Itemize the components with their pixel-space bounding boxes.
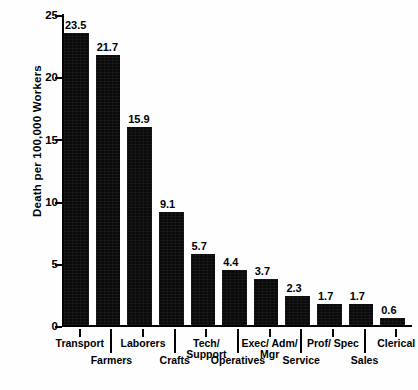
bar	[317, 304, 342, 325]
y-axis-tick-mark	[55, 202, 62, 204]
x-axis-tick-label: Clerical	[377, 338, 415, 349]
bar-chart: Death per 100,000 Workers 0510152025 23.…	[0, 0, 418, 390]
bar-slot: 2.3	[285, 14, 317, 325]
bar	[127, 127, 152, 325]
x-axis-tick-mark	[300, 329, 302, 353]
y-axis-tick-mark	[55, 15, 62, 17]
x-axis-tick-mark	[142, 329, 144, 337]
bar-value-label: 3.7	[255, 266, 270, 279]
bar-value-label: 0.6	[381, 305, 396, 318]
x-axis-tick-label: Laborers	[121, 338, 166, 349]
y-axis-tick-mark	[55, 77, 62, 79]
bar-value-label: 1.7	[350, 291, 365, 304]
bar-slot: 9.1	[159, 14, 191, 325]
bar-slot: 1.7	[317, 14, 349, 325]
x-axis-tick-mark	[174, 329, 176, 353]
bar	[349, 304, 374, 325]
bar-slot: 23.5	[64, 14, 96, 325]
bar	[159, 212, 184, 325]
x-axis-tick-label: Service	[283, 355, 320, 366]
x-axis-labels: TransportFarmersLaborersCraftsTech/Suppo…	[62, 329, 412, 390]
bar-series: 23.521.715.99.15.74.43.72.31.71.70.6	[64, 14, 412, 325]
bar-value-label: 21.7	[97, 42, 118, 55]
x-axis-tick-label: Prof/ Spec	[307, 338, 359, 349]
bar-value-label: 2.3	[286, 283, 301, 296]
bar	[254, 279, 279, 325]
x-axis-tick-label: Transport	[56, 338, 104, 349]
x-axis-tick-mark	[79, 329, 81, 337]
bar-value-label: 4.4	[223, 257, 238, 270]
x-axis-tick-mark	[332, 329, 334, 337]
bar	[380, 318, 405, 325]
plot-area: 0510152025 23.521.715.99.15.74.43.72.31.…	[62, 14, 412, 327]
y-axis-tick-mark	[55, 139, 62, 141]
bar-slot: 5.7	[191, 14, 223, 325]
bar-value-label: 15.9	[128, 114, 149, 127]
x-axis-tick-label: Farmers	[91, 355, 132, 366]
x-axis-line	[62, 325, 412, 327]
bar	[96, 55, 121, 325]
bar	[222, 270, 247, 325]
bar	[285, 296, 310, 325]
bar-value-label: 5.7	[192, 241, 207, 254]
bar-slot: 4.4	[222, 14, 254, 325]
x-axis-tick-mark	[205, 329, 207, 337]
x-axis-tick-mark	[110, 329, 112, 353]
y-axis-title: Death per 100,000 Workers	[31, 16, 43, 266]
bar-value-label: 9.1	[160, 199, 175, 212]
bar-slot: 21.7	[96, 14, 128, 325]
bar-slot: 0.6	[380, 14, 412, 325]
bar-slot: 1.7	[349, 14, 381, 325]
x-axis-tick-mark	[395, 329, 397, 337]
bar-slot: 3.7	[254, 14, 286, 325]
bar-slot: 15.9	[127, 14, 159, 325]
x-axis-tick-label: Sales	[351, 355, 378, 366]
y-axis-tick-mark	[55, 326, 62, 328]
x-axis-tick-mark	[269, 329, 271, 337]
x-axis-tick-mark	[364, 329, 366, 353]
bar-value-label: 23.5	[65, 20, 86, 33]
bar	[191, 254, 216, 325]
y-axis-tick-mark	[55, 264, 62, 266]
bar-value-label: 1.7	[318, 291, 333, 304]
x-axis-tick-mark	[237, 329, 239, 353]
bar	[64, 33, 89, 325]
